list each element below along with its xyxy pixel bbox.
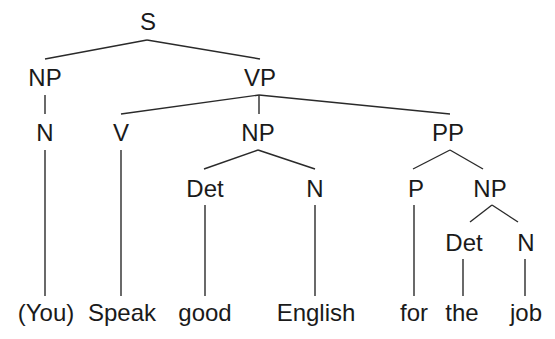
edge-vp-to-v — [121, 95, 259, 114]
node-pp: PP — [432, 119, 464, 146]
leaf-word: for — [400, 299, 428, 326]
edge-pp-to-np3 — [450, 150, 483, 169]
edge-s-to-np1 — [45, 40, 147, 59]
edge-pp-to-p — [413, 150, 450, 169]
leaf-word: Speak — [88, 299, 157, 326]
leaf-word: good — [178, 299, 231, 326]
node-n1: N — [36, 119, 53, 146]
node-det1: Det — [186, 175, 224, 202]
tree-leaf-words: (You)SpeakgoodEnglishforthejob — [18, 299, 542, 326]
leaf-word: job — [509, 299, 542, 326]
node-p: P — [408, 175, 424, 202]
node-np1: NP — [28, 64, 61, 91]
edge-np2-to-n2 — [258, 150, 315, 169]
node-vp: VP — [244, 64, 276, 91]
leaf-word: English — [277, 299, 356, 326]
node-n3: N — [517, 229, 534, 256]
node-det2: Det — [445, 229, 483, 256]
node-v: V — [113, 119, 129, 146]
edge-np2-to-det1 — [204, 150, 258, 169]
edge-np3-to-n3 — [492, 205, 518, 222]
node-np3: NP — [473, 175, 506, 202]
leaf-word: the — [445, 299, 478, 326]
edge-s-to-vp — [147, 40, 260, 59]
leaf-word: (You) — [18, 299, 74, 326]
edge-vp-to-pp — [259, 95, 450, 114]
tree-edges — [45, 40, 525, 296]
node-n2: N — [306, 175, 323, 202]
node-s: S — [140, 8, 156, 35]
node-np2: NP — [241, 119, 274, 146]
tree-nodes: SNPVPNVNPPPDetNPNPDetN — [28, 8, 534, 256]
edge-np3-to-det2 — [470, 205, 492, 222]
syntax-tree-diagram: SNPVPNVNPPPDetNPNPDetN (You)SpeakgoodEng… — [0, 0, 555, 339]
